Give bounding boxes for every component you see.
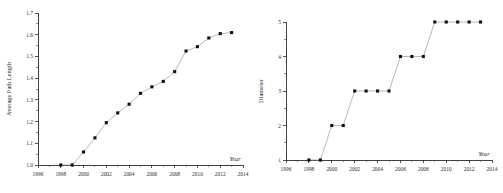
x-tick-label: 2004: [372, 166, 383, 172]
y-tick-label: 2: [278, 123, 281, 129]
chart-panel-diameter: 1234519961998200020022004200620082010201…: [252, 0, 503, 193]
data-point-marker: [116, 111, 119, 114]
data-point-marker: [353, 89, 356, 92]
data-point-marker: [444, 20, 447, 23]
series-line: [308, 22, 480, 160]
data-point-marker: [150, 85, 153, 88]
data-point-marker: [82, 150, 85, 153]
y-tick-label: 1.3: [26, 97, 33, 103]
data-point-marker: [207, 36, 210, 39]
data-point-marker: [105, 121, 108, 124]
x-tick-label: 1996: [280, 166, 291, 172]
x-tick-label: 2002: [101, 171, 112, 177]
data-point-marker: [128, 103, 131, 106]
data-point-marker: [456, 20, 459, 23]
x-tick-label: 2012: [463, 166, 474, 172]
x-tick-label: 2010: [440, 166, 451, 172]
data-point-marker: [387, 89, 390, 92]
data-point-marker: [364, 89, 367, 92]
y-axis-title: Average Path Length: [5, 61, 12, 116]
y-tick-label: 4: [278, 54, 281, 60]
data-point-marker: [93, 136, 96, 139]
y-tick-label: 1.0: [26, 162, 33, 168]
data-point-marker: [173, 70, 176, 73]
data-point-marker: [318, 158, 321, 161]
data-point-marker: [433, 20, 436, 23]
data-point-marker: [410, 55, 413, 58]
data-point-marker: [162, 80, 165, 83]
x-tick-label: 2000: [326, 166, 337, 172]
x-tick-label: 2014: [486, 166, 497, 172]
data-point-marker: [196, 45, 199, 48]
data-point-marker: [421, 55, 424, 58]
data-point-marker: [307, 158, 310, 161]
x-tick-label: 2006: [395, 166, 406, 172]
data-point-marker: [219, 32, 222, 35]
x-axis-title: Year: [229, 155, 241, 162]
figure-two-panel-charts: 1.01.11.21.31.41.51.61.71996199820002002…: [0, 0, 503, 193]
x-tick-label: 2004: [124, 171, 135, 177]
data-point-marker: [330, 124, 333, 127]
x-tick-label: 2008: [169, 171, 180, 177]
x-tick-label: 2002: [349, 166, 360, 172]
data-point-marker: [59, 163, 62, 166]
y-tick-label: 1.5: [26, 53, 33, 59]
x-tick-label: 2008: [417, 166, 428, 172]
data-point-marker: [398, 55, 401, 58]
y-tick-label: 1.2: [26, 119, 33, 125]
y-tick-label: 1.7: [26, 10, 33, 16]
data-point-marker: [185, 49, 188, 52]
y-tick-label: 5: [278, 19, 281, 25]
x-tick-label: 1998: [55, 171, 66, 177]
x-tick-label: 2006: [146, 171, 157, 177]
y-axis-title: Diameter: [257, 78, 264, 103]
data-point-marker: [71, 163, 74, 166]
x-tick-label: 2000: [78, 171, 89, 177]
data-point-marker: [467, 20, 470, 23]
data-point-marker: [230, 31, 233, 34]
data-point-marker: [139, 92, 142, 95]
x-tick-label: 2014: [238, 171, 249, 177]
data-point-marker: [341, 124, 344, 127]
y-tick-label: 1.1: [26, 140, 33, 146]
x-tick-label: 1996: [33, 171, 44, 177]
x-tick-label: 2010: [192, 171, 203, 177]
x-tick-label: 2012: [215, 171, 226, 177]
chart-panel-average-path-length: 1.01.11.21.31.41.51.61.71996199820002002…: [0, 0, 252, 193]
y-tick-label: 1.4: [26, 75, 33, 81]
diameter-chart: 1234519961998200020022004200620082010201…: [252, 0, 503, 193]
data-point-marker: [376, 89, 379, 92]
series-line: [61, 33, 232, 165]
data-point-marker: [479, 20, 482, 23]
y-tick-label: 1.6: [26, 32, 33, 38]
x-axis-title: Year: [478, 150, 490, 157]
y-tick-label: 3: [278, 88, 281, 94]
average-path-length-chart: 1.01.11.21.31.41.51.61.71996199820002002…: [0, 0, 252, 193]
y-tick-label: 1: [278, 157, 281, 163]
x-tick-label: 1998: [303, 166, 314, 172]
